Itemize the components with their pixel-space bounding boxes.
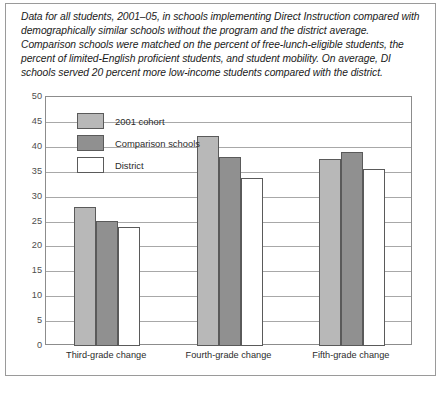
- plot-area: 2001 cohortComparison schoolsDistrict: [45, 96, 412, 345]
- x-axis-tick-label: Third-grade change: [66, 350, 146, 360]
- bar: [197, 136, 219, 346]
- legend-swatch: [77, 135, 104, 151]
- x-axis-tick-label: Fifth-grade change: [312, 350, 389, 360]
- legend-swatch: [77, 113, 104, 129]
- legend-label: 2001 cohort: [115, 116, 165, 127]
- y-axis-tick-label: 50: [16, 91, 42, 101]
- y-axis-tick-label: 5: [16, 315, 42, 325]
- bar: [118, 227, 140, 346]
- bar: [96, 221, 118, 346]
- y-axis-tick-label: 30: [16, 191, 42, 201]
- bar: [74, 207, 96, 346]
- y-axis-tick-label: 10: [16, 290, 42, 300]
- figure-page: Data for all students, 2001–05, in schoo…: [0, 0, 444, 396]
- bar: [219, 157, 241, 346]
- bar: [319, 159, 341, 346]
- legend-label: District: [115, 160, 144, 171]
- bar: [241, 178, 263, 346]
- y-axis-tick-label: 15: [16, 265, 42, 275]
- y-axis-tick-label: 25: [16, 216, 42, 226]
- y-axis-tick-label: 45: [16, 116, 42, 126]
- legend-swatch: [77, 157, 104, 173]
- y-axis-tick-label: 35: [16, 166, 42, 176]
- y-axis-tick-label: 0: [16, 340, 42, 350]
- bar: [363, 169, 385, 346]
- legend-label: Comparison schools: [115, 138, 200, 149]
- y-axis-tick-label: 40: [16, 141, 42, 151]
- bar: [341, 152, 363, 346]
- y-axis-tick-label: 20: [16, 240, 42, 250]
- chart: 2001 cohortComparison schoolsDistrict 05…: [0, 0, 444, 396]
- x-axis-tick-label: Fourth-grade change: [186, 350, 272, 360]
